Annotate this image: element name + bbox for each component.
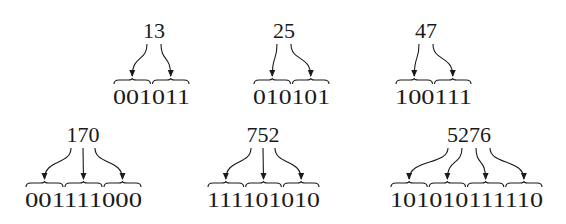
decimal-value: 5276 [447, 122, 491, 147]
arrowhead-icon [308, 70, 314, 77]
arrowhead-icon [269, 70, 275, 77]
arrowhead-icon [81, 173, 87, 180]
arrow-icon [291, 44, 311, 76]
arrowhead-icon [450, 70, 456, 77]
decimal-value: 47 [415, 18, 437, 43]
arrow-icon [433, 44, 453, 76]
arrow-icon [275, 148, 301, 179]
arrow-icon [490, 148, 524, 179]
binary-value: 111101010 [207, 187, 320, 212]
arrowhead-icon [298, 173, 304, 180]
decimal-value: 752 [247, 122, 280, 147]
binary-value: 101010111110 [390, 187, 543, 212]
conversion-item: 25010101 [253, 18, 330, 109]
arrowhead-icon [168, 70, 174, 77]
conversion-item: 5276101010111110 [390, 122, 543, 212]
arrowhead-icon [406, 173, 412, 180]
conversion-item: 752111101010 [207, 122, 320, 212]
arrow-icon [226, 148, 251, 179]
conversion-item: 47100111 [395, 18, 472, 109]
arrowhead-icon [129, 70, 135, 77]
arrowhead-icon [120, 173, 126, 180]
arrowhead-icon [223, 173, 229, 180]
arrowhead-icon [521, 173, 527, 180]
arrowhead-icon [483, 173, 489, 180]
conversion-item: 170001111000 [25, 122, 142, 212]
binary-value: 001111000 [25, 187, 142, 212]
decimal-value: 170 [67, 122, 100, 147]
arrow-icon [409, 148, 448, 179]
binary-value: 010101 [253, 84, 330, 109]
binary-value: 001011 [113, 84, 190, 109]
arrowhead-icon [411, 70, 417, 77]
decimal-value: 25 [273, 18, 295, 43]
arrowhead-icon [261, 173, 267, 180]
arrow-icon [95, 148, 123, 179]
conversion-item: 13001011 [113, 18, 190, 109]
conversion-diagram: 1300101125010101471001111700011110007521… [0, 0, 566, 224]
arrowhead-icon [444, 173, 450, 180]
decimal-value: 13 [143, 18, 165, 43]
arrowhead-icon [42, 173, 48, 180]
binary-value: 100111 [395, 84, 472, 109]
arrow-icon [45, 148, 72, 179]
